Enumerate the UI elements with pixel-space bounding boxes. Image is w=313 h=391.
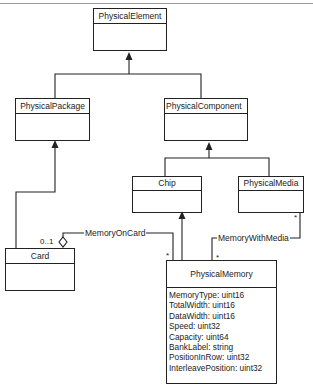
multiplicity-card: 0..1 (40, 238, 53, 246)
class-physical-element[interactable]: PhysicalElement (93, 8, 167, 51)
attribute-list: MemoryType: uint16 TotalWidth: uint16 Da… (167, 288, 276, 373)
attribute: DataWidth: uint16 (169, 311, 274, 321)
class-physical-media[interactable]: PhysicalMedia (238, 176, 304, 213)
class-physical-package[interactable]: PhysicalPackage (15, 98, 90, 141)
attribute: Capacity: uint64 (169, 332, 274, 342)
class-physical-component[interactable]: PhysicalComponent (164, 98, 248, 141)
multiplicity-memory-with-media: * (216, 254, 219, 262)
class-physical-memory[interactable]: PhysicalMemory MemoryType: uint16 TotalW… (166, 260, 277, 384)
attribute: TotalWidth: uint16 (169, 300, 274, 310)
class-name: PhysicalPackage (16, 99, 89, 114)
multiplicity-media: * (294, 214, 297, 222)
multiplicity-memory-on-card: * (166, 252, 169, 260)
attribute: InterleavePosition: uint32 (169, 363, 274, 373)
class-name: PhysicalMedia (239, 177, 303, 191)
class-name: PhysicalElement (94, 9, 166, 24)
attribute: MemoryType: uint16 (169, 290, 274, 300)
aggregation-diamond-icon (59, 237, 67, 247)
generalization-arrow-icon (126, 52, 133, 60)
attribute: PositionInRow: uint32 (169, 352, 274, 362)
generalization-arrow-icon (52, 140, 59, 148)
association-label-memory-on-card: MemoryOnCard (84, 228, 146, 238)
attribute: Speed: uint32 (169, 321, 274, 331)
class-name: Card (6, 249, 74, 264)
class-name: PhysicalComponent (165, 99, 247, 114)
class-chip[interactable]: Chip (132, 176, 202, 213)
class-card[interactable]: Card (5, 248, 75, 291)
generalization-arrow-icon (206, 142, 213, 150)
association-label-memory-with-media: MemoryWithMedia (217, 233, 290, 243)
attribute: BankLabel: string (169, 342, 274, 352)
class-name: Chip (133, 177, 201, 191)
class-name: PhysicalMemory (167, 261, 276, 288)
